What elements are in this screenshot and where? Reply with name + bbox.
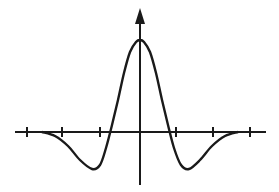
y-axis-arrow-icon — [135, 8, 145, 24]
wavelet-diagram — [0, 0, 279, 192]
y-axis — [135, 8, 145, 185]
